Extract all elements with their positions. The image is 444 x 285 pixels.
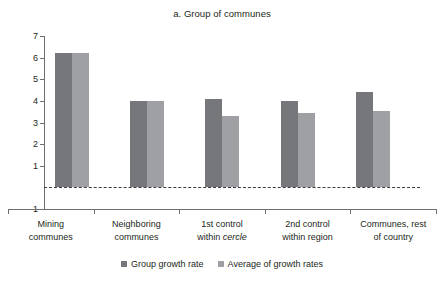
category-separator bbox=[94, 209, 95, 214]
bar bbox=[373, 111, 390, 188]
y-tick-label: 7 bbox=[33, 32, 38, 41]
legend-swatch-icon bbox=[121, 261, 127, 267]
legend-item[interactable]: Average of growth rates bbox=[218, 259, 323, 269]
category-label: Miningcommunes bbox=[8, 218, 94, 243]
y-tick-label: 5 bbox=[33, 75, 38, 84]
category-separator bbox=[179, 209, 180, 214]
legend-swatch-icon bbox=[218, 261, 224, 267]
y-tick-label: 3 bbox=[33, 118, 38, 127]
y-tick-label: 1 bbox=[33, 161, 38, 170]
category-axis-line bbox=[8, 209, 436, 210]
bar bbox=[147, 101, 164, 188]
bar bbox=[356, 92, 373, 187]
bar bbox=[298, 113, 315, 188]
bar-group bbox=[119, 36, 194, 209]
y-tick-label: 2 bbox=[33, 140, 38, 149]
category-separator bbox=[265, 209, 266, 214]
bar-group bbox=[194, 36, 269, 209]
bar bbox=[222, 116, 239, 187]
chart-legend: Group growth rateAverage of growth rates bbox=[0, 259, 444, 269]
category-label: Communes, restof country bbox=[350, 218, 436, 243]
bar bbox=[205, 99, 222, 188]
bar-group bbox=[44, 36, 119, 209]
category-separator bbox=[8, 209, 9, 214]
chart-figure: a. Group of communes 7654321-1 Miningcom… bbox=[0, 0, 444, 285]
category-label: Neighboringcommunes bbox=[94, 218, 180, 243]
category-separator bbox=[350, 209, 351, 214]
bar bbox=[281, 101, 298, 188]
bar bbox=[130, 101, 147, 188]
plot-area: 7654321-1 bbox=[44, 36, 420, 209]
category-separator bbox=[436, 209, 437, 214]
legend-label: Group growth rate bbox=[131, 259, 204, 269]
y-tick-label: 4 bbox=[33, 96, 38, 105]
bar-group bbox=[270, 36, 345, 209]
y-tick-label: 6 bbox=[33, 53, 38, 62]
bar-group bbox=[345, 36, 420, 209]
bar bbox=[72, 53, 89, 187]
category-label: 2nd controlwithin region bbox=[265, 218, 351, 243]
legend-label: Average of growth rates bbox=[228, 259, 323, 269]
legend-item[interactable]: Group growth rate bbox=[121, 259, 204, 269]
category-label: 1st controlwithin cercle bbox=[179, 218, 265, 243]
chart-title: a. Group of communes bbox=[0, 8, 444, 19]
bar bbox=[55, 53, 72, 187]
bars-layer bbox=[44, 36, 420, 209]
